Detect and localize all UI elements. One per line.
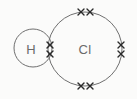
atom-chlorine: Cl bbox=[48, 12, 122, 86]
atom-hydrogen: H bbox=[14, 29, 52, 67]
lone-pair-right-electrons bbox=[118, 42, 124, 57]
hcl-dot-and-cross-diagram: H Cl bbox=[0, 0, 137, 99]
diagram-canvas: H Cl bbox=[0, 0, 137, 99]
hydrogen-label: H bbox=[26, 42, 36, 57]
chlorine-label: Cl bbox=[79, 42, 92, 57]
